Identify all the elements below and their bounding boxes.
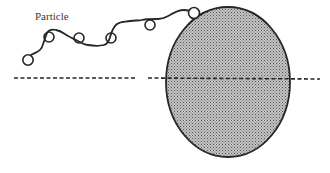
loop-6 [189, 8, 200, 19]
loop-5 [145, 20, 155, 30]
collector-ellipse [166, 7, 290, 157]
particle-label: Particle [35, 11, 69, 22]
loop-1 [23, 55, 33, 65]
particle-collision-diagram: Particle [0, 0, 330, 173]
diagram-canvas [0, 0, 330, 173]
